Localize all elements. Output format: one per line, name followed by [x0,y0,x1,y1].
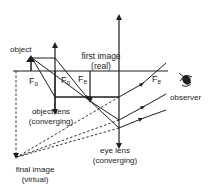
final-image-label: final image [16,165,55,174]
final-image-arrowhead [13,153,19,159]
eye-icon [179,73,192,86]
first-image-label: first image [81,51,120,61]
object-label: object [10,45,32,54]
object-lens-label: object lens [32,107,70,116]
microscope-ray-diagram: object first image (real) Fo Fo Fe Fe ob… [0,0,220,193]
object-arrow [26,55,35,71]
focal-point-fe-right: Fe [152,74,162,85]
final-image-subtitle: (virtual) [22,175,49,184]
focal-point-fo-right: Fo [61,75,71,86]
focal-point-fe-left: Fe [78,74,88,85]
focal-point-fo-left: Fo [29,76,39,87]
eye-lens-rays [119,63,166,128]
object-lens-subtitle: (converging) [29,117,74,126]
observer-label: observer [170,93,201,102]
eye-lens-label: eye lens [100,146,130,155]
eye-lens-subtitle: (converging) [93,156,138,165]
first-image-subtitle: (real) [91,61,111,71]
